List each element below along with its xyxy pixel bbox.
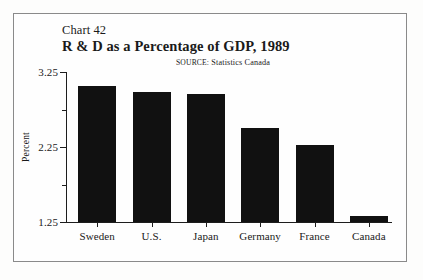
page-title: R & D as a Percentage of GDP, 1989 xyxy=(62,38,290,55)
chart-number: Chart 42 xyxy=(62,23,106,38)
chart-source-label: SOURCE: xyxy=(176,58,209,67)
bar-u-s xyxy=(133,92,171,222)
x-tick xyxy=(369,223,370,227)
y-tick-major xyxy=(60,72,66,73)
x-axis-line xyxy=(66,222,392,223)
y-tick-minor xyxy=(62,185,66,186)
x-tick-label: Sweden xyxy=(79,230,114,242)
bar-france xyxy=(296,145,334,222)
x-tick-label: Canada xyxy=(352,230,386,242)
y-tick-major xyxy=(60,147,66,148)
plot-area: 1.252.253.25 SwedenU.S.JapanGermanyFranc… xyxy=(66,72,398,222)
x-tick xyxy=(206,223,207,227)
bar-germany xyxy=(241,128,279,222)
x-tick-label: Japan xyxy=(193,230,219,242)
y-tick-label: 3.25 xyxy=(38,66,58,78)
x-tick xyxy=(260,223,261,227)
x-tick-label: U.S. xyxy=(142,230,162,242)
chart-source: SOURCE: Statistics Canada xyxy=(176,58,270,67)
y-axis-line xyxy=(66,72,67,222)
y-tick-label: 2.25 xyxy=(38,141,58,153)
x-tick-label: Germany xyxy=(239,230,281,242)
y-tick-minor xyxy=(62,110,66,111)
x-tick xyxy=(97,223,98,227)
x-tick-label: France xyxy=(299,230,330,242)
y-tick-label: 1.25 xyxy=(38,216,58,228)
x-tick xyxy=(152,223,153,227)
y-tick-major xyxy=(60,222,66,223)
y-axis-title: Percent xyxy=(21,132,31,162)
chart-source-value: Statistics Canada xyxy=(211,58,270,67)
x-tick xyxy=(315,223,316,227)
chart-figure: Chart 42 R & D as a Percentage of GDP, 1… xyxy=(0,0,423,280)
bar-canada xyxy=(350,216,388,222)
bar-sweden xyxy=(78,86,116,222)
bar-japan xyxy=(187,94,225,222)
